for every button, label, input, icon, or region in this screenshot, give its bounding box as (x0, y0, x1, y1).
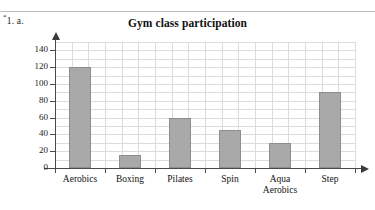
y-axis-tick-label: 40 (8, 128, 48, 138)
y-axis-tick (50, 118, 55, 119)
gridline-vertical (205, 42, 206, 168)
x-axis-label-line: Aerobics (63, 174, 97, 184)
y-axis-tick (50, 50, 55, 51)
bar (219, 130, 241, 168)
bar-chart: 020406080100120140 AerobicsBoxingPilates… (0, 0, 375, 210)
x-axis-arrow-icon (361, 165, 369, 173)
x-axis-tick (55, 168, 56, 173)
gridline-vertical (122, 42, 123, 168)
bar (169, 118, 191, 168)
y-axis-tick-label: 60 (8, 112, 48, 122)
y-axis-tick (50, 67, 55, 68)
y-axis-tick (50, 101, 55, 102)
x-axis-tick (255, 168, 256, 173)
gridline-vertical (355, 42, 356, 168)
x-axis-label-line: Step (322, 174, 339, 184)
y-axis-tick (50, 134, 55, 135)
y-axis-tick (50, 151, 55, 152)
bar (69, 67, 91, 168)
bar (319, 92, 341, 168)
x-axis-tick (155, 168, 156, 173)
gridline-vertical (255, 42, 256, 168)
x-axis-label-line: Boxing (116, 174, 144, 184)
x-axis-label-line: Spin (221, 174, 238, 184)
x-axis-line (44, 168, 362, 169)
x-axis-tick (205, 168, 206, 173)
y-axis-tick-label: 100 (8, 78, 48, 88)
y-axis-arrow-icon (52, 32, 60, 40)
y-axis-tick-label: 80 (8, 95, 48, 105)
x-axis-category-label: Step (299, 174, 361, 185)
x-axis-tick (355, 168, 356, 173)
x-axis-label-line: Aerobics (249, 185, 311, 196)
bar (269, 143, 291, 168)
gridline-vertical (105, 42, 106, 168)
x-axis-tick (105, 168, 106, 173)
x-axis-tick (305, 168, 306, 173)
y-axis-tick-label: 120 (8, 61, 48, 71)
worksheet-page: *1. a. Gym class participation 020406080… (0, 0, 375, 210)
gridline-vertical (138, 42, 139, 168)
plot-area (55, 42, 355, 168)
y-axis-tick-label: 140 (8, 44, 48, 54)
gridline-vertical (305, 42, 306, 168)
y-axis-tick-label: 20 (8, 145, 48, 155)
x-axis-label-line: Pilates (167, 174, 192, 184)
x-axis-label-line: Aqua (270, 174, 291, 184)
gridline-vertical (155, 42, 156, 168)
y-axis-tick (50, 84, 55, 85)
y-axis-line (55, 38, 56, 168)
bar (119, 155, 141, 168)
y-axis-tick-label: 0 (8, 162, 48, 172)
